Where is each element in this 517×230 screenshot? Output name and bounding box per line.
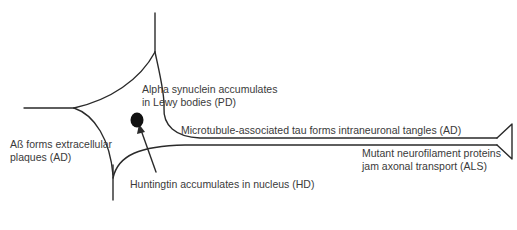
abeta-label: Aß forms extracellular plaques (AD) (10, 138, 112, 164)
abeta-label-line1: Aß forms extracellular (10, 138, 112, 151)
neurofilament-label: Mutant neurofilament proteins jam axonal… (362, 147, 501, 173)
neurofilament-label-line1: Mutant neurofilament proteins (362, 147, 501, 160)
huntingtin-label-line1: Huntingtin accumulates in nucleus (HD) (130, 178, 314, 191)
alpha-synuclein-label: Alpha synuclein accumulates in Lewy bodi… (142, 83, 277, 109)
huntingtin-label: Huntingtin accumulates in nucleus (HD) (130, 178, 314, 191)
neuron-diagram (0, 0, 517, 230)
huntingtin-arrow-line (141, 130, 156, 172)
alpha-synuclein-label-line2: in Lewy bodies (PD) (142, 96, 277, 109)
abeta-label-line2: plaques (AD) (10, 151, 112, 164)
tau-label: Microtubule-associated tau forms intrane… (181, 124, 461, 137)
neurofilament-label-line2: jam axonal transport (ALS) (362, 160, 501, 173)
nucleus-dot (131, 113, 144, 128)
alpha-synuclein-label-line1: Alpha synuclein accumulates (142, 83, 277, 96)
tau-label-line1: Microtubule-associated tau forms intrane… (181, 124, 461, 137)
